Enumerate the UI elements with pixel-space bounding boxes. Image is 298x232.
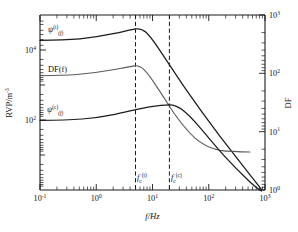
figure-container: 10-1 100 101 102 103 104 102 103 102 101… bbox=[0, 0, 298, 232]
chart-svg: 10-1 100 101 102 103 104 102 103 102 101… bbox=[0, 0, 298, 232]
x-axis-label: f/Hz bbox=[145, 211, 160, 221]
y-axis-label-right: DF bbox=[283, 97, 293, 108]
curve-label-df-f: DF(f) bbox=[48, 65, 67, 74]
